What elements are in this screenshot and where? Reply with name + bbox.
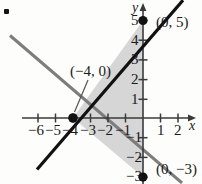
- x-axis-label: x: [189, 119, 195, 133]
- y-tick-label-3: 3: [131, 52, 139, 67]
- x-tick-label-2: 2: [174, 123, 182, 138]
- x-tick-label-neg5: −5: [45, 123, 61, 138]
- y-tick-label-2: 2: [131, 72, 139, 87]
- point-dot-0-5: [138, 16, 147, 25]
- x-tick-label-1: 1: [157, 123, 165, 138]
- y-tick-label-neg2: −2: [126, 150, 142, 165]
- y-tick-label-1: 1: [131, 92, 139, 107]
- bullet-marker-icon: [4, 9, 9, 14]
- point-label-0-neg3: (0, −3): [156, 162, 197, 177]
- y-tick-label-5: 5: [131, 13, 139, 28]
- x-tick-label-neg3: −3: [80, 123, 96, 138]
- x-tick-label-neg2: −2: [97, 123, 113, 138]
- y-tick-label-neg3: −3: [126, 169, 142, 184]
- point-label-neg4-0: (−4, 0): [70, 64, 111, 79]
- point-label-0-5: (0, 5): [156, 15, 189, 30]
- y-axis-arrow: [140, 3, 147, 11]
- x-tick-label-neg6: −6: [28, 123, 44, 138]
- y-tick-label-4: 4: [131, 33, 139, 48]
- y-tick-label-neg1: −1: [126, 130, 142, 145]
- x-tick-label-neg4: −4: [62, 123, 78, 138]
